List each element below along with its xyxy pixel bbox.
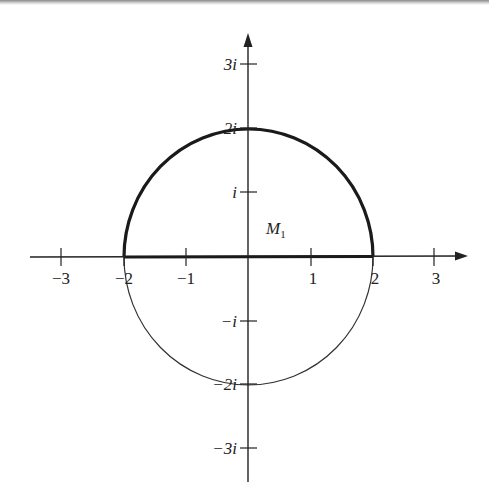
y-tick-label: i — [232, 183, 237, 202]
region-label-main: M — [265, 219, 281, 238]
y-tick-label: −3i — [212, 439, 237, 458]
region-label-subscript: 1 — [280, 228, 286, 240]
x-tick-label: −3 — [52, 269, 70, 288]
imaginary-axis-arrow-icon — [244, 33, 253, 47]
x-tick-label: −1 — [177, 269, 195, 288]
real-axis-arrow-icon — [455, 252, 468, 261]
y-tick-label: 2i — [224, 119, 238, 138]
complex-plane-diagram: −3 −2 −1 1 2 3 3i 2i i −i −2i −3i M1 — [0, 0, 489, 504]
x-tick-label: 2 — [371, 269, 380, 288]
y-tick-label: 3i — [223, 55, 238, 74]
x-tick-label: 1 — [309, 269, 318, 288]
y-tick-label: −i — [221, 312, 237, 331]
x-tick-label: 3 — [432, 269, 441, 288]
y-tick-label: −2i — [212, 375, 237, 394]
x-tick-label: −2 — [115, 269, 133, 288]
region-label: M1 — [265, 219, 286, 240]
